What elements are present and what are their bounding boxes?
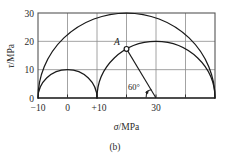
xtick-label-0: 0 [65, 103, 70, 113]
ytick-label-30: 30 [25, 9, 35, 19]
angle-arrow-stem [146, 93, 147, 98]
ytick-label-20: 20 [25, 37, 35, 47]
mohr-circle-plot: A 60° 30 20 10 0 −10 0 +10 30 σ/MPa τ/MP… [0, 0, 230, 158]
tau-axis-title: τ/MPa [6, 43, 16, 68]
point-A-label: A [113, 37, 120, 47]
xtick-label-30: 30 [151, 103, 161, 113]
xtick-label-neg10: −10 [31, 103, 46, 113]
ytick-label-10: 10 [25, 65, 35, 75]
xtick-label-pos10: +10 [92, 103, 107, 113]
sigma-axis-title: σ/MPa [114, 122, 140, 132]
mohr-circle-figure: A 60° 30 20 10 0 −10 0 +10 30 σ/MPa τ/MP… [0, 0, 230, 158]
sigma-axis-unit: /MPa [119, 122, 140, 132]
figure-caption: (b) [109, 142, 120, 153]
ytick-label-0: 0 [29, 94, 34, 104]
point-A-marker [124, 47, 129, 52]
angle-60-label: 60° [128, 82, 140, 92]
tau-axis-unit: /MPa [6, 43, 16, 64]
